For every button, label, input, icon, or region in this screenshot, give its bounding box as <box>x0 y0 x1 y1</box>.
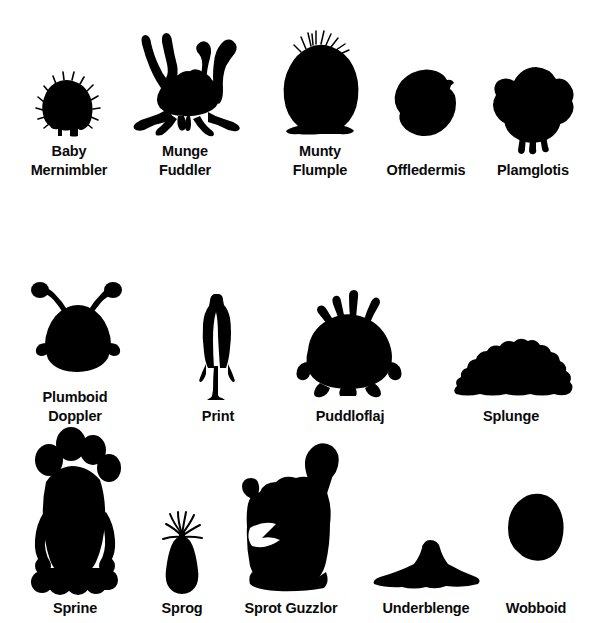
creature-card-plumboid-doppler[interactable]: Plumboid Doppler <box>18 240 132 426</box>
creature-card-print[interactable]: Print <box>170 240 266 426</box>
creature-card-plamglotis[interactable]: Plamglotis <box>478 20 588 180</box>
creature-card-baby-mernimbler[interactable]: Baby Mernimbler <box>14 20 124 180</box>
creature-label: Plamglotis <box>497 161 569 180</box>
creature-label: Munty Flumple <box>293 142 348 180</box>
creature-chart: Baby Mernimbler <box>0 0 593 623</box>
wobboid-silhouette <box>488 420 584 595</box>
print-silhouette <box>170 278 266 403</box>
creature-label: Wobboid <box>506 599 567 618</box>
sprine-silhouette <box>16 420 134 595</box>
offledermis-silhouette <box>378 37 474 157</box>
plumboid-doppler-silhouette <box>18 259 132 384</box>
splunge-silhouette <box>446 278 576 403</box>
creature-card-puddloflaj[interactable]: Puddloflaj <box>288 240 412 426</box>
sprot-guzzlor-silhouette <box>228 420 354 595</box>
creature-label: Sprot Guzzlor <box>244 599 337 618</box>
creature-label: Munge Fuddler <box>159 142 211 180</box>
plamglotis-silhouette <box>478 37 588 157</box>
creature-card-sprine[interactable]: Sprine <box>16 422 134 618</box>
underblenge-silhouette <box>368 420 484 595</box>
creature-card-munge-fuddler[interactable]: Munge Fuddler <box>120 20 250 180</box>
creature-label: Offledermis <box>387 161 466 180</box>
creature-card-sprog[interactable]: Sprog <box>140 422 224 618</box>
puddloflaj-silhouette <box>288 278 412 403</box>
creature-label: Baby Mernimbler <box>31 142 108 180</box>
creature-card-sprot-guzzlor[interactable]: Sprot Guzzlor <box>228 422 354 618</box>
creature-label: Sprog <box>161 599 202 618</box>
creature-card-underblenge[interactable]: Underblenge <box>368 422 484 618</box>
creature-card-munty-flumple[interactable]: Munty Flumple <box>268 20 372 180</box>
creature-card-splunge[interactable]: Splunge <box>446 240 576 426</box>
creature-card-wobboid[interactable]: Wobboid <box>488 422 584 618</box>
creature-card-offledermis[interactable]: Offledermis <box>378 20 474 180</box>
creature-label: Sprine <box>53 599 97 618</box>
sprog-silhouette <box>140 420 224 595</box>
creature-label: Underblenge <box>383 599 470 618</box>
munty-flumple-silhouette <box>268 18 372 138</box>
munge-fuddler-silhouette <box>120 18 250 138</box>
baby-mernimbler-silhouette <box>14 18 124 138</box>
